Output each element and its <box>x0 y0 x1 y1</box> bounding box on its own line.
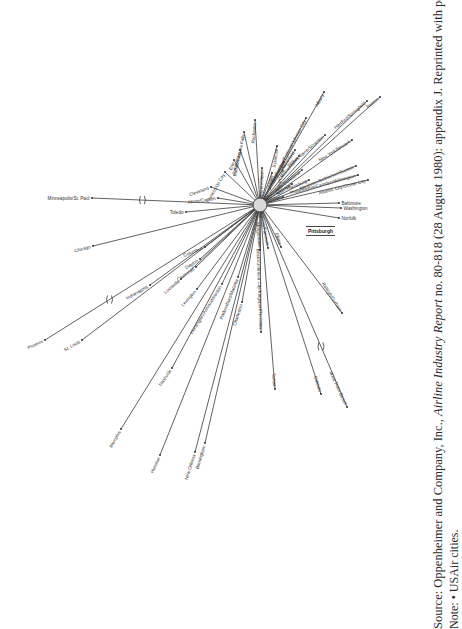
usair-city-dot-icon <box>338 217 340 219</box>
usair-city-dot-icon <box>243 131 245 133</box>
usair-city-dot-icon <box>267 247 269 249</box>
city-label: Louisville <box>163 278 181 294</box>
city-labels: Minneapolis/St. PaulAkron/CantonToledoCl… <box>27 91 381 480</box>
route-line <box>260 205 339 218</box>
usair-city-dot-icon <box>324 134 326 136</box>
city-label: Elkins <box>274 232 283 246</box>
route-line <box>260 205 341 208</box>
city-label: Hartford/Springfield <box>333 100 367 130</box>
city-label: Birmingham <box>195 445 207 470</box>
route-line <box>150 205 260 285</box>
usair-city-dot-icon <box>367 179 369 181</box>
usair-city-dot-icon <box>224 171 226 173</box>
usair-city-dot-icon <box>254 119 256 121</box>
usair-city-dot-icon <box>159 454 161 456</box>
hub-legend-label: Pittsburgh <box>306 226 335 236</box>
route-line <box>172 205 260 368</box>
usair-city-dot-icon <box>91 197 93 199</box>
usair-city-dot-icon <box>323 91 325 93</box>
usair-city-dot-icon <box>305 117 307 119</box>
usair-city-dot-icon <box>320 393 322 395</box>
pittsburgh-hub-icon <box>253 198 267 212</box>
route-line <box>92 198 260 205</box>
city-label: St. Louis <box>63 339 82 353</box>
usair-city-dot-icon <box>195 266 197 268</box>
usair-city-dot-icon <box>301 169 303 171</box>
usair-city-dot-icon <box>294 149 296 151</box>
usair-city-dot-icon <box>44 339 46 341</box>
city-label: Albany <box>314 92 325 107</box>
city-label: Memphis <box>108 429 122 448</box>
usair-city-dot-icon <box>340 207 342 209</box>
city-label: Boston <box>365 96 380 109</box>
city-label: Toledo <box>170 210 184 215</box>
usair-city-dot-icon <box>357 174 359 176</box>
usair-city-dot-icon <box>196 288 198 290</box>
usair-city-dot-icon <box>276 145 278 147</box>
usair-city-dot-icon <box>185 211 187 213</box>
city-label: Norfolk <box>342 216 357 221</box>
usair-city-dot-icon <box>355 165 357 167</box>
source-prefix: Source: Oppenheimer and Company, Inc., <box>431 416 445 629</box>
usair-city-dot-icon <box>260 331 262 333</box>
usair-city-dot-icon <box>171 367 173 369</box>
usair-city-dot-icon <box>237 276 239 278</box>
city-label: Orlando <box>313 375 323 393</box>
usair-city-dot-icon <box>92 245 94 247</box>
route-spokes <box>45 92 380 455</box>
city-label: Phoenix <box>27 338 45 350</box>
city-label: Charleston <box>232 303 244 326</box>
usair-city-dot-icon <box>221 283 223 285</box>
usair-city-dot-icon <box>282 196 284 198</box>
route-line <box>211 187 260 205</box>
usair-city-dot-icon <box>261 167 263 169</box>
usair-city-dot-icon <box>241 301 243 303</box>
city-label: Morgantown <box>255 222 262 248</box>
city-label: Raleigh/Durham <box>321 281 343 312</box>
city-label: New York/Newark <box>318 139 352 163</box>
source-suffix: no. 80-818 (28 August 1980): appendix J.… <box>431 0 445 299</box>
usair-city-dot-icon <box>338 202 340 204</box>
city-label: Nashville <box>158 368 173 386</box>
city-label: Chicago <box>74 244 92 253</box>
note-caption: Note: • USAir cities. <box>447 529 462 629</box>
city-label: Tampa <box>271 373 277 388</box>
usair-city-dot-icon <box>274 388 276 390</box>
usair-city-dot-icon <box>194 451 196 453</box>
city-label: Houston <box>149 456 161 474</box>
usair-city-dot-icon <box>120 428 122 430</box>
city-label: Bristol/Johnson City/Kingsport/Tri-Citie… <box>256 249 264 331</box>
city-label: Buffalo/Niagara Falls <box>232 133 246 176</box>
usair-city-dot-icon <box>204 442 206 444</box>
city-label: West Palm Beach <box>328 371 348 407</box>
city-label: Lexington <box>180 289 197 307</box>
usair-city-dot-icon <box>217 197 219 199</box>
usair-city-dot-icon <box>308 179 310 181</box>
source-title: Airline Industry Report <box>431 299 445 416</box>
route-line <box>195 205 260 452</box>
source-caption: Source: Oppenheimer and Company, Inc., A… <box>431 0 446 629</box>
usair-city-dot-icon <box>180 278 182 280</box>
usair-city-dot-icon <box>280 246 282 248</box>
usair-city-dot-icon <box>366 100 368 102</box>
usair-city-dot-icon <box>210 186 212 188</box>
usair-city-dot-icon <box>351 139 353 141</box>
usair-city-dot-icon <box>81 339 83 341</box>
route-line <box>260 203 339 205</box>
usair-city-dot-icon <box>379 96 381 98</box>
city-label: Washington <box>344 206 369 211</box>
usair-city-dot-icon <box>204 246 206 248</box>
usair-city-dot-icon <box>346 406 348 408</box>
city-label: Minneapolis/St. Paul <box>48 196 90 201</box>
usair-city-dot-icon <box>149 284 151 286</box>
route-line <box>186 205 260 212</box>
usair-city-dot-icon <box>199 258 201 260</box>
city-label: Cleveland <box>189 185 210 197</box>
usair-city-dot-icon <box>341 312 343 314</box>
